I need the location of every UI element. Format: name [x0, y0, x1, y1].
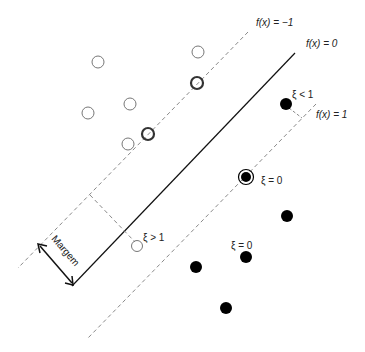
filled-point — [281, 210, 293, 222]
margin-arrow: Margem — [38, 233, 82, 285]
filled-point — [190, 261, 202, 273]
open-point — [82, 107, 94, 119]
open-point — [92, 56, 104, 68]
open-point — [122, 138, 134, 150]
open-point — [124, 98, 136, 110]
xi-eq-0-pt-label: ξ = 0 — [231, 240, 253, 252]
neg-margin-label: f(x) = −1 — [256, 17, 293, 28]
negative-support-vectors — [142, 77, 203, 140]
xi-gt-1-label: ξ > 1 — [143, 232, 165, 244]
slack-line-xi-gt-1 — [90, 195, 135, 242]
open-point — [192, 46, 204, 58]
pos-margin-label: f(x) = 1 — [316, 109, 347, 120]
filled-point — [220, 302, 232, 314]
xi-lt-1-label: ξ < 1 — [292, 89, 314, 101]
open-support-vector — [191, 77, 203, 89]
negative-margin-line — [18, 32, 248, 268]
misclassified-open-point — [132, 241, 143, 252]
positive-margin-line — [88, 104, 316, 338]
slack-line-xi-lt-1 — [289, 108, 302, 118]
xi-eq-0-sv-label: ξ = 0 — [261, 175, 283, 187]
decision-hyperplane — [72, 53, 295, 286]
svm-diagram: Margem f(x) = − — [0, 0, 365, 352]
filled-point — [280, 98, 292, 110]
positive-support-vector — [239, 170, 254, 185]
positive-class-points — [190, 98, 293, 314]
hyperplane-label: f(x) = 0 — [306, 38, 338, 49]
filled-point — [240, 251, 252, 263]
